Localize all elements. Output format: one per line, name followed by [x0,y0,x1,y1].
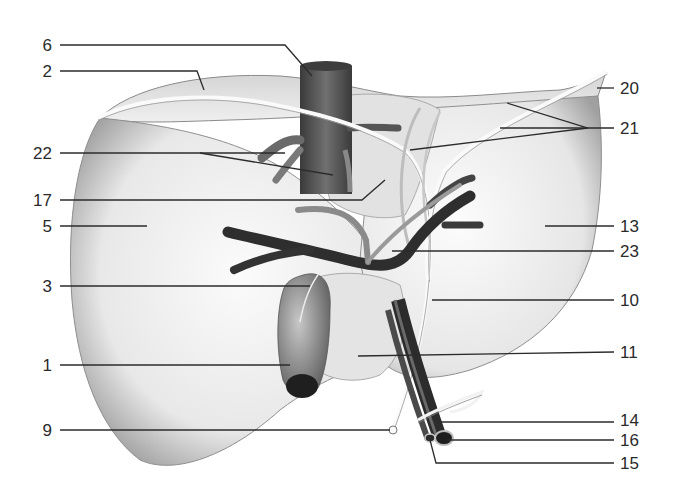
label-20: 20 [620,79,639,98]
label-23: 23 [620,242,639,261]
label-2: 2 [43,62,52,81]
label-17: 17 [33,191,52,210]
label-13: 13 [620,217,639,236]
label-16: 16 [620,431,639,450]
label-1: 1 [43,356,52,375]
label-21: 21 [620,119,639,138]
label-15: 15 [620,454,639,473]
label-10: 10 [620,291,639,310]
label-22: 22 [33,144,52,163]
leader-15 [430,440,614,463]
label-11: 11 [620,343,638,362]
label-14: 14 [620,411,639,430]
label-3: 3 [43,277,52,296]
label-6: 6 [43,36,52,55]
liver-anatomy-diagram: 6 2 22 17 5 3 1 9 20 21 13 23 10 11 14 1… [0,0,683,488]
label-9: 9 [43,421,52,440]
label-5: 5 [43,217,52,236]
